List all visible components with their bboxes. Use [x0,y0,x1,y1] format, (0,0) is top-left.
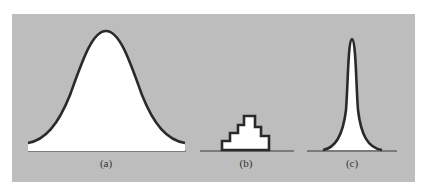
label-c: (c) [346,157,358,169]
histogram-b [200,116,294,151]
label-a: (a) [100,157,112,169]
distribution-diagram [0,0,428,191]
label-b: (b) [240,157,253,169]
curve-a [28,31,186,151]
curve-c [307,39,397,151]
